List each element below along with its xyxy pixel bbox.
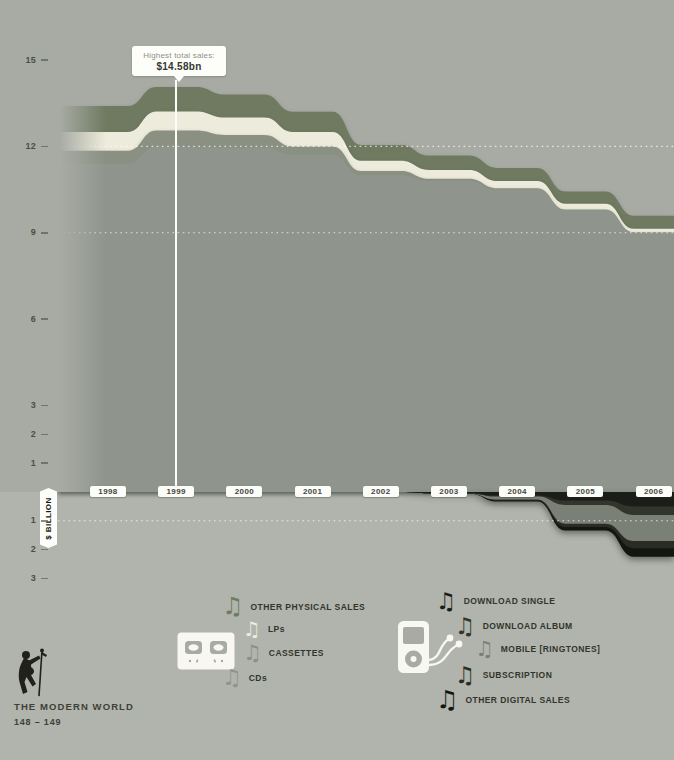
- y-tick-mark: [41, 462, 48, 464]
- legend-item-download-single: ♫DOWNLOAD SINGLE: [436, 591, 555, 612]
- y-tick-mark: [41, 434, 48, 436]
- y-tick-label: 2: [6, 544, 36, 554]
- x-axis-year-label: 2000: [226, 486, 262, 497]
- footer-page-numbers: 148 – 149: [14, 717, 61, 727]
- x-axis-year-label: 2004: [499, 486, 535, 497]
- y-tick-label: 3: [6, 573, 36, 583]
- peak-year-indicator-line: [175, 80, 177, 491]
- y-tick-label: 1: [6, 458, 36, 468]
- x-axis-year-label: 1999: [158, 486, 194, 497]
- legend-label: LPs: [268, 624, 285, 634]
- x-axis-year-label: 2002: [363, 486, 399, 497]
- legend-item-other-digital-sales: ♫OTHER DIGITAL SALES: [436, 689, 570, 712]
- x-axis-year-label: 2005: [567, 486, 603, 497]
- callout-label: Highest total sales:: [132, 51, 226, 60]
- peak-sales-callout: Highest total sales: $14.58bn: [132, 46, 226, 76]
- y-tick-mark: [41, 520, 48, 522]
- legend-label: DOWNLOAD SINGLE: [464, 596, 556, 606]
- x-axis-year-label: 2006: [636, 486, 672, 497]
- legend-item-download-album: ♫DOWNLOAD ALBUM: [455, 616, 573, 637]
- legend-item-lps: ♫LPs: [243, 620, 285, 638]
- music-note-icon: ♫: [455, 616, 476, 637]
- y-tick-label: 2: [6, 429, 36, 439]
- x-axis-year-label: 2001: [295, 486, 331, 497]
- y-tick-label: 6: [6, 314, 36, 324]
- y-tick-mark: [41, 549, 48, 551]
- y-tick-mark: [41, 146, 48, 148]
- legend-label: CASSETTES: [269, 648, 324, 658]
- legend-label: OTHER DIGITAL SALES: [465, 695, 570, 705]
- legend-item-subscription: ♫SUBSCRIPTION: [455, 665, 552, 686]
- legend-label: MOBILE [RINGTONES]: [501, 644, 601, 654]
- legend-label: CDs: [249, 673, 267, 683]
- music-note-icon: ♫: [455, 665, 476, 686]
- y-axis-unit-badge: $ BILLION: [40, 488, 57, 548]
- callout-value: $14.58bn: [132, 61, 226, 72]
- y-axis-unit-label: $ BILLION: [44, 497, 53, 539]
- music-note-icon: ♫: [436, 689, 458, 712]
- music-note-icon: ♫: [243, 644, 262, 663]
- legend-item-other-physical-sales: ♫OTHER PHYSICAL SALES: [222, 596, 365, 618]
- music-note-icon: ♫: [436, 591, 457, 612]
- dancing-singer-icon: [14, 646, 56, 702]
- y-tick-mark: [41, 578, 48, 580]
- legend-label: DOWNLOAD ALBUM: [483, 621, 573, 631]
- y-tick-label: 1: [6, 515, 36, 525]
- music-note-icon: ♫: [475, 640, 494, 659]
- y-tick-label: 15: [6, 55, 36, 65]
- y-tick-mark: [41, 59, 48, 61]
- legend-item-cds: ♫CDs: [222, 668, 267, 688]
- legend-label: SUBSCRIPTION: [483, 670, 553, 680]
- y-tick-label: 12: [6, 141, 36, 151]
- x-axis-year-label: 1998: [90, 486, 126, 497]
- footer-series-title: THE MODERN WORLD: [14, 701, 134, 712]
- x-axis-year-label: 2003: [431, 486, 467, 497]
- legend-label: OTHER PHYSICAL SALES: [251, 602, 366, 612]
- y-tick-mark: [41, 405, 48, 407]
- music-note-icon: ♫: [222, 668, 242, 688]
- y-tick-mark: [41, 318, 48, 320]
- legend-item-mobile-ringtones-: ♫MOBILE [RINGTONES]: [475, 640, 600, 659]
- music-note-icon: ♫: [222, 596, 244, 618]
- y-tick-mark: [41, 232, 48, 234]
- legend-item-cassettes: ♫CASSETTES: [243, 644, 324, 663]
- y-tick-label: 9: [6, 227, 36, 237]
- y-tick-label: 3: [6, 400, 36, 410]
- music-note-icon: ♫: [243, 620, 261, 638]
